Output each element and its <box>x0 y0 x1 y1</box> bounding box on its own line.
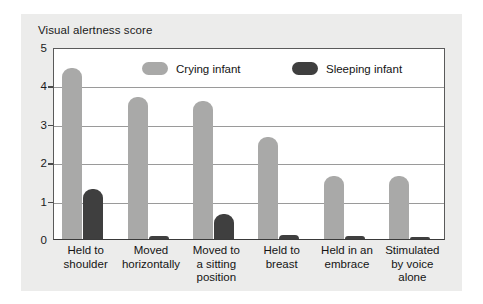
bar-sleeping[interactable] <box>149 236 169 239</box>
bar-crying[interactable] <box>62 68 82 239</box>
y-tick-label: 1 <box>33 196 47 208</box>
bar-sleeping[interactable] <box>410 237 430 239</box>
chart-legend: Crying infantSleeping infant <box>54 49 444 239</box>
y-tick-mark <box>48 163 53 164</box>
gridline <box>54 203 444 204</box>
x-axis-label: Moved toa sittingposition <box>184 244 249 285</box>
y-tick-mark <box>48 202 53 203</box>
x-axis-label: Stimulatedby voicealone <box>380 244 445 285</box>
chart-title: Visual alertness score <box>38 24 153 36</box>
bar-crying[interactable] <box>258 137 278 239</box>
x-axis-label: Held toshoulder <box>53 244 118 271</box>
gridline <box>54 87 444 88</box>
y-tick-label: 4 <box>33 80 47 92</box>
y-tick-label: 0 <box>33 234 47 246</box>
x-axis-labels: Held toshoulderMovedhorizontallyMoved to… <box>53 244 445 300</box>
legend-item[interactable]: Sleeping infant <box>292 62 402 75</box>
bar-sleeping[interactable] <box>345 236 365 239</box>
y-tick-mark <box>48 125 53 126</box>
x-axis-label: Held in anembrace <box>314 244 379 271</box>
y-tick-mark <box>48 86 53 87</box>
y-tick-label: 5 <box>33 42 47 54</box>
bar-crying[interactable] <box>193 101 213 239</box>
legend-label: Sleeping infant <box>326 63 402 75</box>
x-axis-label: Held tobreast <box>249 244 314 271</box>
y-tick-label: 2 <box>33 157 47 169</box>
chart-figure: Visual alertness score 012345 Crying inf… <box>0 0 483 304</box>
bar-crying[interactable] <box>324 176 344 239</box>
bar-crying[interactable] <box>389 176 409 239</box>
legend-swatch-icon <box>142 62 168 75</box>
plot-area: Crying infantSleeping infant <box>53 48 445 240</box>
gridline <box>54 126 444 127</box>
y-axis-labels: 012345 <box>33 48 47 240</box>
bar-sleeping[interactable] <box>83 189 103 239</box>
legend-item[interactable]: Crying infant <box>142 62 241 75</box>
gridline <box>54 164 444 165</box>
legend-label: Crying infant <box>176 63 241 75</box>
legend-swatch-icon <box>292 62 318 75</box>
y-tick-label: 3 <box>33 119 47 131</box>
bar-sleeping[interactable] <box>279 235 299 239</box>
bar-sleeping[interactable] <box>214 214 234 239</box>
x-axis-label: Movedhorizontally <box>118 244 183 271</box>
bar-crying[interactable] <box>128 97 148 239</box>
